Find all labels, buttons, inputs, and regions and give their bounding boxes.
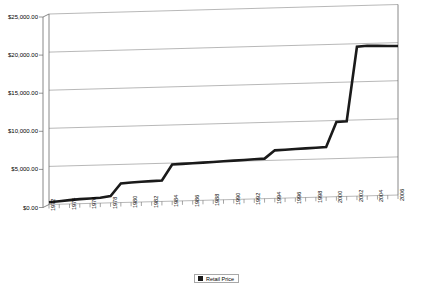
x-axis-tick-label: 1984	[174, 195, 180, 207]
x-axis-tick-label: 1980	[133, 196, 139, 208]
x-axis-tick-label: 1986	[195, 194, 201, 206]
x-axis-tick-label: 1982	[154, 195, 160, 207]
chart-legend: Retail Price	[194, 274, 239, 283]
y-axis-tick-label: $5,000.00	[11, 166, 38, 172]
x-axis-tick-label: 1994	[277, 192, 283, 204]
x-axis-tick-label: 1972	[51, 198, 57, 210]
y-axis-tick-label: $10,000.00	[8, 128, 38, 134]
x-axis-tick-label: 2000	[338, 190, 344, 202]
axis-lines	[43, 5, 398, 208]
y-axis-tick-label: $0.00	[23, 205, 38, 211]
grid-lines	[49, 5, 398, 205]
chart-plot-area	[0, 0, 431, 286]
chart-container: $25,000.00$20,000.00$15,000.00$10,000.00…	[0, 0, 431, 286]
legend-swatch-retail-price	[198, 276, 203, 281]
x-axis-tick-label: 1998	[318, 191, 324, 203]
x-axis-tick-label: 1996	[297, 192, 303, 204]
x-axis-tick-label: 1992	[256, 193, 262, 205]
legend-label-retail-price: Retail Price	[206, 276, 234, 282]
x-axis-tick-label: 1990	[236, 193, 242, 205]
x-axis-tick-label: 1978	[113, 197, 119, 209]
x-axis-tick-label: 2002	[359, 190, 365, 202]
y-axis-tick-label: $20,000.00	[8, 52, 38, 58]
x-axis-tick-label: 1988	[215, 194, 221, 206]
x-axis-tick-label: 1976	[92, 197, 98, 209]
y-axis-tick-label: $25,000.00	[8, 14, 38, 20]
data-series-retail-price	[49, 46, 398, 202]
x-axis-tick-label: 2004	[379, 189, 385, 201]
y-axis-ticks	[39, 17, 43, 208]
y-axis-tick-label: $15,000.00	[8, 90, 38, 96]
x-axis-tick-label: 1974	[72, 198, 78, 210]
x-axis-tick-label: 2006	[400, 189, 406, 201]
